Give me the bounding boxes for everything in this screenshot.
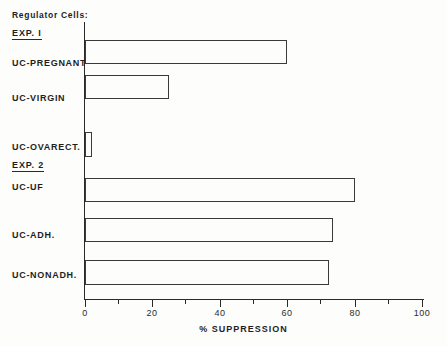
x-tick-70 (320, 300, 321, 304)
x-tick-0 (85, 300, 86, 307)
bar-chart-figure: Regulator Cells: EXP. I UC-PREGNANT UC-V… (0, 0, 447, 346)
x-tick-40 (220, 300, 221, 307)
bar-uc-virgin (85, 75, 169, 99)
x-tick-label-0: 0 (82, 308, 88, 318)
bar-uc-nonadh (85, 260, 329, 285)
x-tick-100 (422, 300, 423, 307)
x-tick-label-100: 100 (414, 308, 431, 318)
bar-uc-uf (85, 178, 355, 202)
category-label-uc-ovarect: UC-OVARECT. (12, 142, 81, 152)
group-label-exp-2: EXP. 2 (12, 160, 44, 172)
x-tick-90 (388, 300, 389, 304)
category-label-uc-virgin: UC-VIRGIN (12, 93, 65, 103)
x-tick-20 (152, 300, 153, 307)
group-label-exp-1: EXP. I (12, 28, 42, 40)
bar-uc-ovarect (85, 132, 92, 157)
x-axis-title: % SUPPRESSION (0, 324, 447, 334)
x-tick-label-60: 60 (281, 308, 292, 318)
x-tick-10 (118, 300, 119, 304)
bar-uc-adh (85, 218, 333, 242)
x-tick-label-40: 40 (214, 308, 225, 318)
category-label-uc-adh: UC-ADH. (12, 230, 55, 240)
category-label-uc-nonadh: UC-NONADH. (12, 270, 77, 280)
category-label-uc-uf: UC-UF (12, 182, 44, 192)
x-tick-80 (355, 300, 356, 307)
x-tick-60 (287, 300, 288, 307)
bar-uc-pregnant (85, 40, 287, 64)
x-tick-50 (253, 300, 254, 304)
x-tick-label-80: 80 (349, 308, 360, 318)
x-tick-label-20: 20 (146, 308, 157, 318)
plot-area: Regulator Cells: EXP. I UC-PREGNANT UC-V… (0, 0, 447, 346)
x-axis-line (84, 299, 424, 300)
category-label-uc-pregnant: UC-PREGNANT (12, 58, 86, 68)
x-tick-30 (185, 300, 186, 304)
regulator-cells-header: Regulator Cells: (12, 10, 88, 20)
